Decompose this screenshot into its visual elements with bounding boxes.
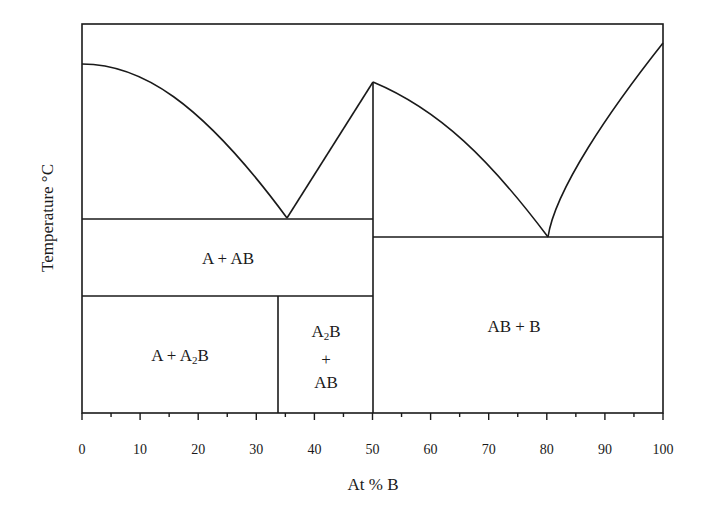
x-tick-label: 80 (540, 442, 554, 458)
liquidus-curve-a (82, 64, 287, 218)
y-axis-label: Temperature °C (38, 164, 58, 272)
x-tick-label: 100 (653, 442, 674, 458)
x-tick-label: 90 (598, 442, 612, 458)
x-tick-label: 50 (366, 442, 380, 458)
x-tick-label: 70 (482, 442, 496, 458)
region-a2b-ab-line1-prefix: A (311, 322, 323, 341)
x-tick-label: 60 (424, 442, 438, 458)
x-tick-label: 20 (191, 442, 205, 458)
liquidus-curve-ab-left (287, 82, 373, 218)
region-label-a2b-ab: A2B + AB (311, 320, 340, 394)
x-tick-label: 10 (133, 442, 147, 458)
x-axis-ticks (82, 413, 663, 420)
phase-diagram-plot (0, 0, 709, 518)
region-a2b-ab-line3: AB (311, 371, 340, 394)
region-a-a2b-prefix: A + A (151, 346, 192, 365)
liquidus-curve-b (548, 43, 663, 237)
region-a2b-ab-line1-suffix: B (329, 322, 340, 341)
region-a2b-ab-line2: + (311, 348, 340, 371)
x-tick-label: 30 (249, 442, 263, 458)
region-label-a-a2b: A + A2B (151, 344, 209, 372)
region-label-a-ab: A + AB (202, 247, 254, 270)
x-tick-label: 0 (79, 442, 86, 458)
x-tick-label: 40 (307, 442, 321, 458)
x-axis-label: At % B (348, 475, 399, 495)
region-a-a2b-suffix: B (197, 346, 208, 365)
region-ab-b-text: AB + B (487, 317, 540, 336)
region-label-ab-b: AB + B (487, 315, 540, 338)
region-a-ab-text: A + AB (202, 249, 254, 268)
liquidus-curve-ab-right (373, 82, 548, 237)
